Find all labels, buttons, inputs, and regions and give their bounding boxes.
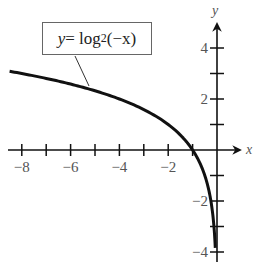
y-tick-label: 4: [201, 40, 209, 56]
y-tick-label: 2: [201, 91, 209, 107]
x-axis-name: x: [245, 142, 253, 157]
equation-arg: (−x): [107, 29, 136, 49]
equation-label: y = log2 (−x): [42, 22, 152, 55]
x-tick-label: −4: [111, 159, 127, 175]
x-tick-labels: −8−6−4−2: [14, 159, 176, 175]
equation-log: = log: [65, 29, 101, 49]
annotation-leader-line: [75, 56, 89, 86]
x-tick-label: −8: [14, 159, 30, 175]
y-tick-label: −2: [192, 193, 208, 209]
y-axis-name: y: [210, 3, 219, 18]
equation-lhs: y: [58, 29, 66, 49]
y-tick-label: −4: [192, 244, 208, 260]
x-tick-label: −6: [63, 159, 79, 175]
x-tick-label: −2: [160, 159, 176, 175]
